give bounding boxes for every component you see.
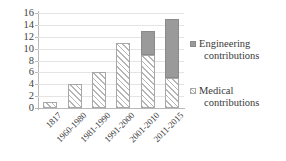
bars-layer bbox=[38, 13, 184, 108]
bar-segment-medical bbox=[68, 84, 82, 108]
bar-segment-medical bbox=[116, 43, 130, 108]
x-axis-labels: 18171960-19801981-19901991-20002001-2010… bbox=[38, 109, 184, 161]
bar-group bbox=[165, 13, 179, 108]
legend-label-engineering-line1: Engineering bbox=[199, 38, 250, 49]
bar-segment-engineering bbox=[141, 31, 155, 55]
y-tick-label: 4 bbox=[29, 79, 34, 90]
plot-area: 1614121086420 bbox=[38, 13, 184, 108]
y-tick-label: 14 bbox=[24, 20, 35, 31]
legend-item-medical: Medical contributions bbox=[190, 85, 285, 108]
x-tick-label: 1817 bbox=[45, 111, 64, 130]
bar-chart: 1614121086420 18171960-19801981-19901991… bbox=[0, 0, 286, 161]
legend-label-engineering: Engineering contributions bbox=[199, 38, 259, 61]
bar-group bbox=[141, 13, 155, 108]
bar-segment-medical bbox=[43, 102, 57, 108]
y-tick-label: 8 bbox=[29, 55, 34, 66]
legend-label-medical-line2: contributions bbox=[199, 97, 259, 109]
y-tick-label: 2 bbox=[29, 91, 34, 102]
legend-label-engineering-line2: contributions bbox=[199, 50, 259, 62]
bar-segment-medical bbox=[165, 78, 179, 108]
bar-segment-medical bbox=[92, 72, 106, 108]
y-tick-label: 0 bbox=[29, 103, 34, 114]
legend-item-engineering: Engineering contributions bbox=[190, 38, 285, 61]
legend-swatch-medical-icon bbox=[190, 88, 196, 94]
y-tick-label: 12 bbox=[24, 32, 35, 43]
bar-group bbox=[43, 13, 57, 108]
legend-label-medical-line1: Medical bbox=[199, 85, 233, 96]
y-tick-label: 6 bbox=[29, 67, 34, 78]
bar-segment-engineering bbox=[165, 19, 179, 78]
bar-group bbox=[116, 13, 130, 108]
y-tick-label: 16 bbox=[24, 8, 35, 19]
bar-group bbox=[92, 13, 106, 108]
y-tick-label: 10 bbox=[24, 43, 35, 54]
legend-label-medical: Medical contributions bbox=[199, 85, 259, 108]
legend-swatch-engineering-icon bbox=[190, 41, 196, 47]
bar-group bbox=[68, 13, 82, 108]
bar-segment-medical bbox=[141, 55, 155, 108]
